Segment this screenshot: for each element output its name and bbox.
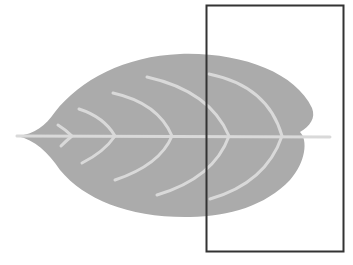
leaf [17,54,330,217]
leaf-diagram [0,0,353,265]
